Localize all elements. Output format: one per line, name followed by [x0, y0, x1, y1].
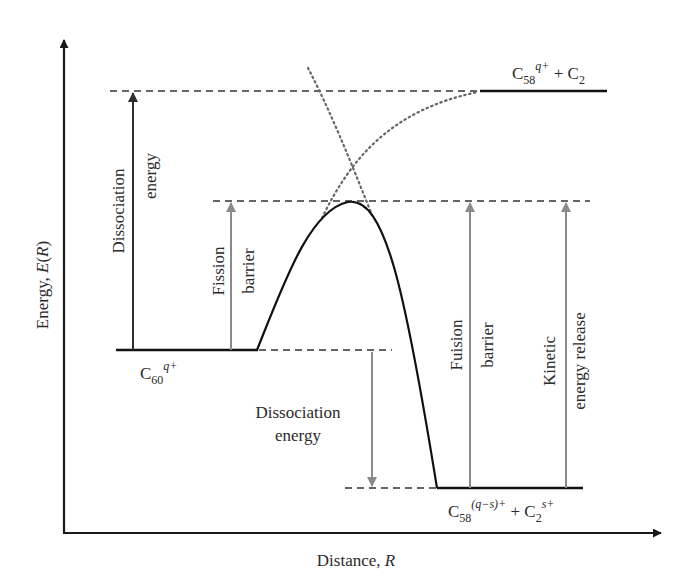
label-c60-reactant: C60q+ — [140, 359, 177, 387]
label-fusion-barrier-line1: Fuision — [447, 319, 466, 371]
energy-diagram: Energy, E(R) Distance, R Dissociation en… — [0, 0, 679, 580]
dotted-curve-coulomb — [308, 68, 372, 215]
axes — [63, 40, 661, 533]
label-kinetic-release-line2: energy release — [570, 312, 589, 409]
dotted-curve-binding — [322, 92, 478, 218]
label-fission-barrier-line2: barrier — [239, 248, 258, 294]
label-fusion-barrier-line2: barrier — [478, 322, 497, 368]
label-dissociation-energy-down-line1: Dissociation — [256, 403, 341, 422]
y-axis-label: Energy, E(R) — [33, 241, 52, 329]
reference-lines — [110, 91, 590, 488]
label-dissociation-energy-left-line1: Dissociation — [109, 168, 128, 253]
label-dissociation-energy-down-line2: energy — [275, 426, 321, 445]
x-axis-label: Distance, R — [317, 551, 396, 570]
label-c58-c2-neutral: C58q+ + C2 — [512, 59, 585, 87]
label-dissociation-energy-left-line2: energy — [141, 153, 160, 199]
label-c58-c2-charged: C58(q−s)+ + C2s+ — [448, 497, 554, 525]
label-fission-barrier-line1: Fission — [209, 246, 228, 296]
energy-levels — [116, 91, 607, 488]
potential-curve — [257, 202, 437, 488]
arrows — [133, 93, 566, 488]
label-kinetic-release-line1: Kinetic — [540, 336, 559, 386]
